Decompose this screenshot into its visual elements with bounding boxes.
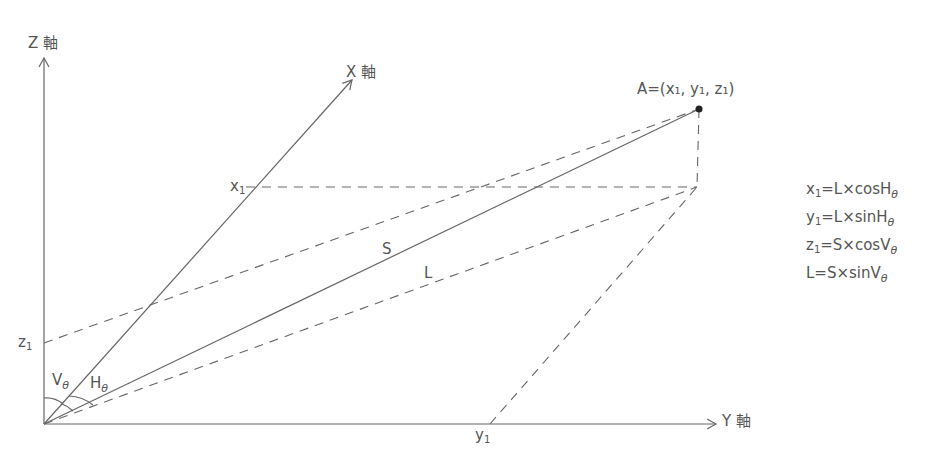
y-axis-label: Y 軸 (722, 414, 751, 429)
formula-rhs: =L×sinH (821, 208, 887, 226)
point-a-dot (696, 106, 703, 113)
v-theta-label: Vθ (52, 373, 69, 391)
x-axis (44, 80, 352, 424)
coordinate-diagram (0, 0, 942, 466)
y1-letter: y (475, 426, 484, 444)
v-theta-symbol: θ (62, 379, 69, 392)
formula-theta: θ (890, 244, 897, 257)
z-axis-suffix: 軸 (43, 34, 58, 52)
h-theta-arc-outer (69, 396, 93, 405)
vector-s (44, 109, 699, 424)
formula-x1: x1=L×cosHθ (806, 178, 898, 206)
dashed-l-projection (44, 187, 697, 424)
point-a-equals: = (647, 80, 660, 98)
formula-z1: z1=S×cosVθ (806, 234, 898, 262)
formula-lhs: y (806, 208, 815, 226)
h-theta-arc (62, 404, 73, 411)
z1-letter: z (18, 333, 26, 351)
dashed-a-to-projection (697, 109, 699, 187)
y-letter: Y (722, 412, 731, 430)
z-letter: Z (28, 34, 38, 52)
l-label: L (424, 266, 432, 281)
formula-y1: y1=L×sinHθ (806, 206, 898, 234)
z1-label: z1 (18, 335, 32, 352)
s-label: S (382, 242, 392, 257)
y1-subscript: 1 (484, 434, 490, 445)
point-a-name: A (637, 80, 647, 98)
formula-lhs: x (806, 180, 815, 198)
y1-label: y1 (475, 428, 490, 445)
z-axis-label: Z 軸 (28, 36, 58, 51)
h-theta-label: Hθ (90, 376, 108, 394)
formula-rhs: =L×cosH (821, 180, 891, 198)
formula-list: x1=L×cosHθ y1=L×sinHθ z1=S×cosVθ L=S×sin… (806, 178, 898, 290)
h-letter: H (90, 374, 101, 392)
x1-letter: x (230, 177, 239, 195)
x1-label: x1 (230, 179, 245, 196)
z1-subscript: 1 (26, 341, 32, 352)
v-theta-arc (44, 398, 63, 404)
x-axis-suffix: 軸 (361, 63, 376, 81)
v-letter: V (52, 371, 62, 389)
dashed-z1-to-a (44, 109, 699, 343)
formula-theta: θ (881, 272, 888, 285)
point-a-coords: (x₁, y₁, z₁) (660, 80, 734, 98)
formula-rhs: =S×cosV (820, 236, 890, 254)
point-a-label: A=(x₁, y₁, z₁) (637, 82, 734, 97)
dashed-y1-to-projection (490, 187, 697, 424)
formula-theta: θ (891, 188, 898, 201)
x-axis-label: X 軸 (346, 65, 376, 80)
x1-subscript: 1 (239, 185, 245, 196)
formula-theta: θ (888, 216, 895, 229)
formula-lhs: z (806, 236, 814, 254)
y-axis-suffix: 軸 (736, 412, 751, 430)
x-letter: X (346, 63, 356, 81)
h-theta-symbol: θ (101, 382, 108, 395)
formula-l: L=S×sinVθ (806, 262, 898, 290)
formula-rhs: =S×sinV (814, 264, 880, 282)
